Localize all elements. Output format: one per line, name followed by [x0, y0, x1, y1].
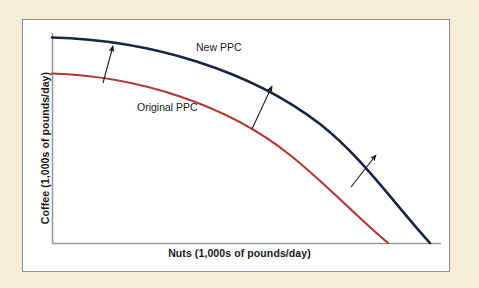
curve-label-new-ppc: New PPC	[196, 41, 242, 53]
x-axis-label: Nuts (1,000s of pounds/day)	[0, 247, 479, 259]
y-axis-label-container: Coffee (1,000s of pounds/day)	[35, 43, 55, 253]
curve-label-original-ppc: Original PPC	[137, 101, 198, 113]
y-axis-label: Coffee (1,000s of pounds/day)	[35, 43, 55, 253]
figure-frame	[22, 19, 450, 272]
